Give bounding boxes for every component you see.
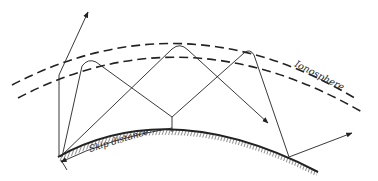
ionosphere-label: Ionosphere xyxy=(292,58,346,93)
diagram-svg: Ionosphere Skip distance xyxy=(0,0,378,181)
ground-hatching xyxy=(58,129,318,176)
skip-distance-diagram: Ionosphere Skip distance xyxy=(0,0,378,181)
ionosphere-layers xyxy=(12,43,362,112)
earth-surface xyxy=(58,129,318,176)
escaping-ray xyxy=(59,12,88,157)
